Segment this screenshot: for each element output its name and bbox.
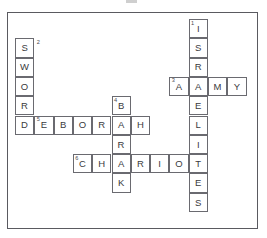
cell-letter: D (21, 120, 28, 130)
crossword-cell[interactable]: E (189, 173, 208, 192)
crossword-cell[interactable]: A (112, 154, 131, 173)
cell-letter: A (176, 82, 183, 92)
crossword-cell[interactable]: 5E (34, 116, 53, 135)
crossword-cell[interactable]: S (189, 38, 208, 57)
cell-letter: A (118, 120, 125, 130)
crossword-cell[interactable]: B (54, 116, 73, 135)
crossword-cell[interactable]: O (169, 154, 188, 173)
cell-letter: E (41, 120, 48, 130)
crossword-cell[interactable]: R (92, 116, 111, 135)
crossword-cell[interactable]: O (15, 77, 34, 96)
crossword-cell[interactable]: T (189, 154, 208, 173)
cell-letter: S (21, 43, 28, 53)
crossword-cell[interactable]: S (189, 193, 208, 212)
clue-number: 4 (114, 98, 117, 104)
crossword-cell[interactable]: H (92, 154, 111, 173)
clue-number: 5 (37, 117, 40, 123)
cell-letter: I (197, 140, 200, 150)
cell-letter: B (118, 101, 125, 111)
cell-letter: R (98, 120, 105, 130)
crossword-cell[interactable]: R (189, 58, 208, 77)
cell-letter: H (137, 120, 144, 130)
crossword-grid: 1ISRAELITESSWORD3AMY4BRK5EBORAH6CHARIO2 (0, 0, 267, 238)
cell-letter: O (175, 159, 183, 169)
crossword-cell[interactable]: W (15, 58, 34, 77)
cell-letter: T (195, 159, 201, 169)
cell-letter: I (158, 159, 161, 169)
cell-letter: S (195, 198, 202, 208)
crossword-cell[interactable]: R (112, 135, 131, 154)
cell-letter: M (214, 82, 222, 92)
cell-letter: E (195, 178, 202, 188)
cell-letter: R (137, 159, 144, 169)
crossword-cell[interactable]: R (15, 96, 34, 115)
cell-letter: E (195, 101, 202, 111)
cell-letter: C (79, 159, 86, 169)
crossword-cell[interactable]: M (208, 77, 227, 96)
crossword-cell[interactable]: Y (227, 77, 246, 96)
crossword-cell[interactable]: I (189, 135, 208, 154)
cell-letter: R (118, 140, 125, 150)
clue-number: 1 (191, 21, 194, 27)
crossword-cell[interactable]: E (189, 96, 208, 115)
cell-letter: S (195, 43, 202, 53)
cell-letter: O (21, 82, 29, 92)
crossword-cell[interactable]: S (15, 38, 34, 57)
crossword-cell[interactable]: A (112, 116, 131, 135)
crossword-cell[interactable]: D (15, 116, 34, 135)
cell-letter: O (79, 120, 87, 130)
cell-letter: L (196, 120, 201, 130)
crossword-cell[interactable]: I (150, 154, 169, 173)
crossword-cell[interactable]: H (131, 116, 150, 135)
clue-number: 3 (172, 78, 175, 84)
cell-letter: A (118, 159, 125, 169)
cell-letter: R (195, 62, 202, 72)
crossword-cell[interactable]: O (73, 116, 92, 135)
cell-letter: Y (234, 82, 241, 92)
cell-letter: R (21, 101, 28, 111)
crossword-cell[interactable]: R (131, 154, 150, 173)
crossword-cell[interactable]: 6C (73, 154, 92, 173)
clue-number: 6 (75, 156, 78, 162)
cell-letter: H (98, 159, 105, 169)
cell-letter: K (118, 178, 125, 188)
crossword-cell[interactable]: 4B (112, 96, 131, 115)
cell-letter: W (20, 62, 29, 72)
crossword-cell[interactable]: K (112, 173, 131, 192)
cell-letter: A (195, 82, 202, 92)
crossword-cell[interactable]: L (189, 116, 208, 135)
crossword-cell[interactable]: A (189, 77, 208, 96)
clue-number-outside: 2 (37, 40, 40, 46)
cell-letter: I (197, 24, 200, 34)
cell-letter: B (60, 120, 67, 130)
crossword-page: 1ISRAELITESSWORD3AMY4BRK5EBORAH6CHARIO2 (0, 0, 267, 238)
crossword-cell[interactable]: 1I (189, 19, 208, 38)
crossword-cell[interactable]: 3A (169, 77, 188, 96)
